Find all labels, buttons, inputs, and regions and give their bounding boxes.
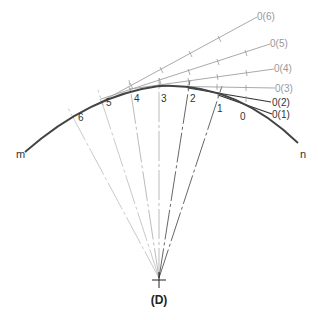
ray-label-0-5: 0(5) <box>270 38 288 49</box>
curve-label-n: n <box>300 148 306 160</box>
ray-label-0-1: 0(1) <box>272 109 290 120</box>
point-label-3: 3 <box>161 93 167 104</box>
ray-0-2 <box>188 88 271 102</box>
radial-line-6 <box>68 108 159 278</box>
ray-label-0-3: 0(3) <box>275 83 293 94</box>
figure-caption: (D) <box>151 293 168 307</box>
point-label-2: 2 <box>190 93 196 104</box>
radial-line-1 <box>159 86 222 278</box>
radial-line-4 <box>129 80 159 278</box>
point-label-6: 6 <box>78 112 84 123</box>
ray-0-4 <box>130 69 274 89</box>
ray-label-0-6: 0(6) <box>257 11 275 22</box>
center-cross-icon <box>152 272 166 288</box>
curve-label-m: m <box>16 148 25 160</box>
ray-labels: 0(6) 0(5) 0(4) 0(3) 0(2) 0(1) <box>257 11 293 120</box>
point-label-0: 0 <box>240 111 246 122</box>
point-labels: 6 5 4 3 2 1 0 <box>78 93 246 123</box>
radial-lines <box>68 78 222 278</box>
point-label-5: 5 <box>106 97 112 108</box>
point-label-4: 4 <box>134 93 140 104</box>
ray-0-5 <box>101 44 270 99</box>
ray-label-0-4: 0(4) <box>274 63 292 74</box>
point-label-1: 1 <box>217 103 223 114</box>
radial-line-2 <box>159 80 190 278</box>
radial-line-5 <box>98 90 159 278</box>
curve-construction-diagram: 6 5 4 3 2 1 0 0(6) 0(5) 0(4) 0(3) 0(2) 0… <box>0 0 318 320</box>
ray-label-0-2: 0(2) <box>272 97 290 108</box>
